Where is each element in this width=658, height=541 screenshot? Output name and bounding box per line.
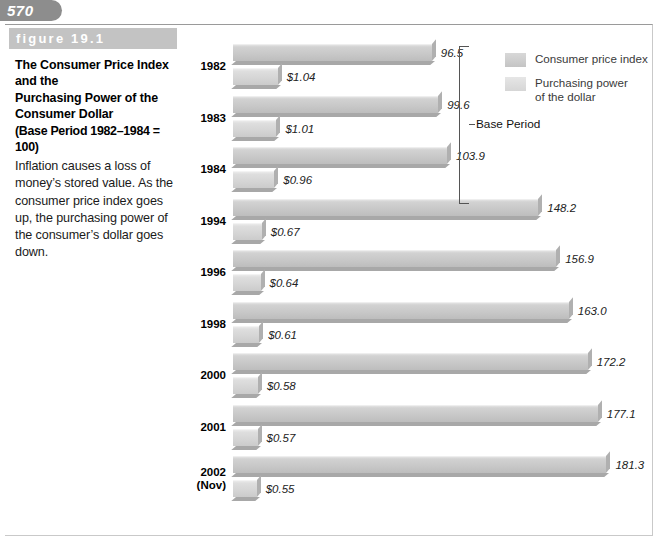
category-label-2000: 2000 xyxy=(186,369,226,382)
bar-bottom-shadow xyxy=(231,61,435,65)
figure-caption-column: figure 19.1 The Consumer Price Index and… xyxy=(9,28,181,261)
bar-cpi-1998 xyxy=(233,302,569,319)
bar-face xyxy=(233,456,606,473)
category-label-1982: 1982 xyxy=(186,60,226,73)
figure-number-label: figure 19.1 xyxy=(16,31,105,46)
bar-purchasing-power-1983-value-label: $1.01 xyxy=(285,123,314,135)
bar-cpi-2000 xyxy=(233,353,588,370)
bar-cpi-1998-value-label: 163.0 xyxy=(578,305,607,317)
category-label-line-1: 1983 xyxy=(186,112,226,125)
bar-bottom-shadow xyxy=(231,422,601,426)
bar-purchasing-power-1996 xyxy=(233,274,261,291)
bar-purchasing-power-1984-value-label: $0.96 xyxy=(283,174,312,186)
bar-right-shadow xyxy=(278,64,282,85)
bar-purchasing-power-1982 xyxy=(233,68,278,85)
bar-face xyxy=(233,171,274,188)
bar-right-shadow xyxy=(432,40,436,61)
figure-number-band: figure 19.1 xyxy=(9,28,177,49)
bar-right-shadow xyxy=(259,321,263,342)
bar-cpi-1982 xyxy=(233,44,432,61)
category-label-line-1: 1982 xyxy=(186,60,226,73)
bar-cpi-1996 xyxy=(233,250,556,267)
category-label-line-1: 2001 xyxy=(186,421,226,434)
bar-face xyxy=(233,68,278,85)
category-label-1984: 1984 xyxy=(186,163,226,176)
category-label-line-2: (Nov) xyxy=(186,479,226,492)
bar-cpi-1983 xyxy=(233,96,438,113)
bar-right-shadow xyxy=(606,452,610,473)
figure-title-line-2: Purchasing Power of the xyxy=(15,90,181,106)
bar-purchasing-power-1994-value-label: $0.67 xyxy=(271,226,300,238)
figure-title-line-3: Consumer Dollar xyxy=(15,106,181,122)
category-label-line-1: 1984 xyxy=(186,163,226,176)
bar-face xyxy=(233,120,276,137)
bar-face xyxy=(233,223,262,240)
base-period-bracket-icon xyxy=(459,46,469,204)
bar-bottom-shadow xyxy=(231,343,262,347)
bar-face xyxy=(233,377,258,394)
figure-title-line-1: The Consumer Price Index and the xyxy=(15,57,181,90)
category-label-line-1: 1994 xyxy=(186,215,226,228)
bar-bottom-shadow xyxy=(231,85,280,89)
bar-cpi-2000-value-label: 172.2 xyxy=(597,356,626,368)
bar-bottom-shadow xyxy=(231,216,541,220)
bar-face xyxy=(233,147,447,164)
category-label-line-1: 1996 xyxy=(186,266,226,279)
bar-face xyxy=(233,405,598,422)
bar-right-shadow xyxy=(438,91,442,112)
bar-right-shadow xyxy=(556,246,560,267)
bar-face xyxy=(233,44,432,61)
bar-purchasing-power-2002-nov--value-label: $0.55 xyxy=(266,483,295,495)
bar-right-shadow xyxy=(276,115,280,136)
bar-bottom-shadow xyxy=(231,319,572,323)
bar-right-shadow xyxy=(257,476,261,497)
bar-face xyxy=(233,250,556,267)
bar-cpi-2002-nov--value-label: 181.3 xyxy=(615,459,644,471)
bar-right-shadow xyxy=(258,373,262,394)
bar-bottom-shadow xyxy=(231,370,590,374)
category-label-line-1: 2002 xyxy=(186,466,226,479)
bar-bottom-shadow xyxy=(231,291,263,295)
bar-right-shadow xyxy=(262,218,266,239)
page-number-text: 570 xyxy=(7,2,34,19)
bar-purchasing-power-1983 xyxy=(233,120,276,137)
category-label-line-1: 1998 xyxy=(186,318,226,331)
category-label-1994: 1994 xyxy=(186,215,226,228)
bar-bottom-shadow xyxy=(231,497,259,501)
page-number-badge: 570 xyxy=(0,0,62,21)
bar-bottom-shadow xyxy=(231,113,441,117)
category-label-1998: 1998 xyxy=(186,318,226,331)
category-label-1983: 1983 xyxy=(186,112,226,125)
bar-face xyxy=(233,302,569,319)
bar-bottom-shadow xyxy=(231,240,265,244)
bar-bottom-shadow xyxy=(231,267,559,271)
bar-bottom-shadow xyxy=(231,188,277,192)
bar-cpi-2001-value-label: 177.1 xyxy=(607,408,636,420)
bar-right-shadow xyxy=(569,297,573,318)
bar-purchasing-power-1998 xyxy=(233,326,259,343)
bar-purchasing-power-2000 xyxy=(233,377,258,394)
bar-right-shadow xyxy=(261,270,265,291)
bar-face xyxy=(233,274,261,291)
category-label-1996: 1996 xyxy=(186,266,226,279)
bar-purchasing-power-2001-value-label: $0.57 xyxy=(267,432,296,444)
bar-face xyxy=(233,480,257,497)
figure-title: The Consumer Price Index and the Purchas… xyxy=(9,57,181,123)
bar-face xyxy=(233,353,588,370)
bar-cpi-2001 xyxy=(233,405,598,422)
bar-cpi-2002-nov- xyxy=(233,456,606,473)
bar-face xyxy=(233,326,259,343)
category-label-2002-nov-: 2002(Nov) xyxy=(186,466,226,492)
figure-description: Inflation causes a loss of money’s store… xyxy=(9,158,181,261)
bar-bottom-shadow xyxy=(231,164,450,168)
bar-right-shadow xyxy=(598,400,602,421)
bar-bottom-shadow xyxy=(231,394,261,398)
bar-purchasing-power-1982-value-label: $1.04 xyxy=(287,71,316,83)
bar-right-shadow xyxy=(588,349,592,370)
bar-purchasing-power-1994 xyxy=(233,223,262,240)
figure-subtitle: (Base Period 1982–1984 = 100) xyxy=(9,123,181,156)
bar-purchasing-power-2001 xyxy=(233,429,258,446)
bar-right-shadow xyxy=(274,167,278,188)
bar-cpi-1984 xyxy=(233,147,447,164)
bar-purchasing-power-1984 xyxy=(233,171,274,188)
